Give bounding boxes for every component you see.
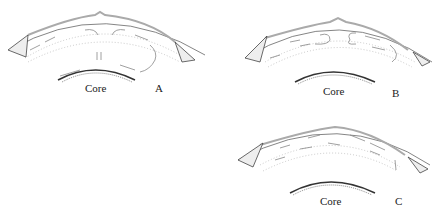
panel-c: Core C [220,105,441,213]
panel-letter-c: C [395,195,402,207]
panel-letter-b: B [392,87,399,99]
panel-letter-a: A [155,82,163,94]
panel-a: Core A [0,0,220,105]
core-label-a: Core [85,82,106,94]
panel-a-diagram [0,0,220,105]
core-label-b: Core [323,85,344,97]
core-label-c: Core [320,195,341,207]
panel-b: Core B [220,0,441,105]
